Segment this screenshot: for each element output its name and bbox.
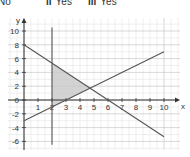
- x-axis-label: x: [181, 102, 185, 111]
- y-axis-arrow-icon: [22, 18, 27, 23]
- x-tick-label: 9: [148, 103, 153, 112]
- y-axis-label: y: [16, 16, 20, 25]
- chart: xy12345678910-6-4-20246810: [0, 0, 190, 157]
- x-tick-label: 6: [106, 103, 111, 112]
- y-tick-label: 6: [15, 55, 20, 64]
- x-tick-label: 10: [160, 103, 169, 112]
- y-tick-label: 4: [15, 68, 20, 77]
- x-tick-label: 1: [36, 103, 41, 112]
- y-tick-label: -6: [12, 137, 20, 146]
- y-tick-label: 0: [15, 96, 20, 105]
- x-tick-label: 5: [92, 103, 97, 112]
- y-tick-label: 2: [15, 82, 20, 91]
- x-tick-label: 4: [78, 103, 83, 112]
- y-tick-label: -4: [12, 124, 20, 133]
- y-tick-label: -2: [12, 110, 20, 119]
- y-tick-label: 8: [15, 41, 20, 50]
- y-tick-label: 10: [10, 27, 19, 36]
- x-tick-label: 8: [134, 103, 139, 112]
- x-axis-arrow-icon: [175, 98, 180, 103]
- x-tick-label: 3: [64, 103, 69, 112]
